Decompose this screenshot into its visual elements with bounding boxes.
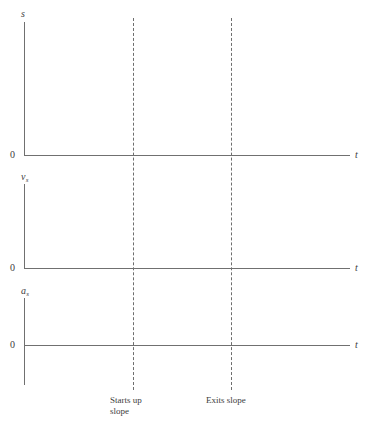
velocity-origin-label: 0 — [10, 263, 15, 273]
event-line-starts-up-slope — [133, 18, 134, 390]
position-y-axis-label: s — [21, 9, 25, 19]
velocity-y-axis-subscript: s — [26, 176, 29, 184]
annotation-starts-up-slope: Starts up slope — [110, 395, 170, 417]
acceleration-y-axis-label: as — [21, 286, 29, 296]
position-x-axis — [24, 155, 350, 156]
annotation-exits-slope: Exits slope — [206, 395, 276, 406]
velocity-y-axis-label: vs — [21, 172, 28, 182]
velocity-x-axis — [24, 268, 350, 269]
position-y-axis — [24, 22, 25, 156]
acceleration-x-axis — [24, 345, 350, 346]
velocity-y-axis — [24, 184, 25, 269]
event-line-exits-slope — [231, 18, 232, 390]
acceleration-y-axis-subscript: s — [26, 290, 29, 298]
position-origin-label: 0 — [10, 150, 15, 160]
acceleration-y-axis — [24, 298, 25, 385]
position-x-axis-label: t — [355, 150, 358, 160]
acceleration-x-axis-label: t — [355, 340, 358, 350]
velocity-x-axis-label: t — [355, 263, 358, 273]
motion-graphs-figure: s 0 t vs 0 t as 0 t Starts up slope Exit… — [0, 0, 369, 421]
acceleration-origin-label: 0 — [10, 340, 15, 350]
